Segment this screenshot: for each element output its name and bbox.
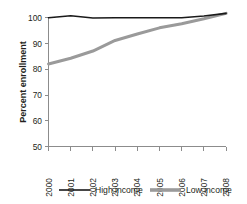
legend-label-low-income: Low income <box>186 185 232 195</box>
chart-legend: High income Low income <box>59 185 232 195</box>
y-axis-ticks: 100 90 80 70 60 50 <box>28 13 48 152</box>
line-chart: Percent enrollment 100 90 80 70 60 50 20… <box>0 0 247 204</box>
series-line-low-income <box>49 13 227 64</box>
x-tick-label-2001: 2001 <box>66 178 76 197</box>
x-tick-label-2005: 2005 <box>155 178 165 197</box>
series-line-high-income <box>49 13 227 18</box>
y-tick-label-60: 60 <box>33 116 43 126</box>
chart-figure: Percent enrollment 100 90 80 70 60 50 20… <box>0 0 247 204</box>
y-tick-label-100: 100 <box>28 13 42 23</box>
y-axis-title: Percent enrollment <box>18 41 28 123</box>
y-tick-label-90: 90 <box>33 39 43 49</box>
legend-label-high-income: High income <box>95 185 143 195</box>
y-tick-label-70: 70 <box>33 90 43 100</box>
y-tick-label-50: 50 <box>33 142 43 152</box>
y-tick-label-80: 80 <box>33 64 43 74</box>
x-tick-label-2000: 2000 <box>44 178 54 197</box>
